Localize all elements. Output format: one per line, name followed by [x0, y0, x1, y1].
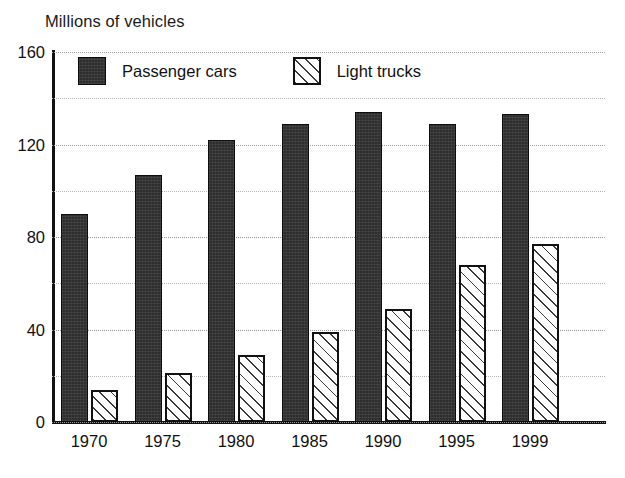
bar-light-trucks — [385, 309, 412, 422]
legend-swatch-icon — [293, 57, 321, 85]
y-axis-tick-label: 40 — [0, 320, 45, 339]
bar-passenger-cars — [429, 124, 456, 422]
y-axis-tick-label: 160 — [0, 43, 45, 62]
bar-passenger-cars — [282, 124, 309, 422]
bar-group — [355, 52, 415, 422]
bar-group — [208, 52, 268, 422]
plot-area — [52, 52, 605, 422]
legend-label: Passenger cars — [122, 62, 237, 81]
bar-light-trucks — [312, 332, 339, 422]
chart-figure: Millions of vehicles 04080120160 1970197… — [0, 0, 625, 478]
gridline — [52, 422, 605, 423]
y-axis-tick-label: 0 — [0, 413, 45, 432]
bar-group — [282, 52, 342, 422]
bar-passenger-cars — [61, 214, 88, 422]
bar-passenger-cars — [208, 140, 235, 422]
bar-light-trucks — [459, 265, 486, 422]
bar-passenger-cars — [502, 114, 529, 422]
chart-title: Millions of vehicles — [45, 12, 185, 31]
legend-label: Light trucks — [337, 62, 421, 81]
bar-light-trucks — [532, 244, 559, 422]
chart-legend: Passenger carsLight trucks — [78, 57, 421, 85]
bar-passenger-cars — [135, 175, 162, 422]
y-axis-tick-label: 80 — [0, 228, 45, 247]
legend-swatch-icon — [78, 57, 106, 85]
legend-entry: Passenger cars — [78, 57, 237, 85]
bar-light-trucks — [238, 355, 265, 422]
x-axis-tick-label: 1999 — [485, 432, 575, 451]
bar-group — [502, 52, 562, 422]
y-axis-tick-label: 120 — [0, 135, 45, 154]
bar-group — [135, 52, 195, 422]
bar-passenger-cars — [355, 112, 382, 422]
bar-light-trucks — [91, 390, 118, 422]
bar-group — [61, 52, 121, 422]
bar-light-trucks — [165, 373, 192, 422]
bar-group — [429, 52, 489, 422]
legend-entry: Light trucks — [293, 57, 421, 85]
